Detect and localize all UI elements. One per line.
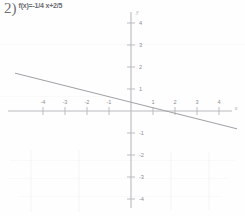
x-tick-label-4: 4 bbox=[217, 99, 220, 105]
x-tick-label-3: 3 bbox=[195, 99, 198, 105]
x-tick-label--1: -1 bbox=[107, 99, 112, 105]
x-tick-label--2: -2 bbox=[85, 99, 90, 105]
x-tick-label-2: 2 bbox=[173, 99, 176, 105]
y-tick-label-1: 1 bbox=[139, 86, 142, 92]
x-tick-label-1: 1 bbox=[151, 99, 154, 105]
x-tick-label--3: -3 bbox=[63, 99, 68, 105]
y-tick-label-3: 3 bbox=[139, 42, 142, 48]
x-tick-label--4: -4 bbox=[41, 99, 46, 105]
x-axis-label: x bbox=[234, 105, 238, 111]
y-tick-label-2: 2 bbox=[139, 64, 142, 70]
y-tick-label--4: -4 bbox=[139, 196, 144, 202]
y-tick-label-4: 4 bbox=[139, 20, 142, 26]
worksheet-page: 2) f(x)=-1/4 x+2/5 bbox=[0, 0, 245, 216]
coordinate-plane: -4 -3 -2 -1 1 2 3 4 4 3 2 1 -1 -2 -3 -4 … bbox=[0, 0, 245, 216]
y-axis-label: y bbox=[135, 9, 139, 15]
function-line-plot bbox=[15, 73, 237, 129]
y-tick-label--2: -2 bbox=[139, 152, 144, 158]
y-tick-label--3: -3 bbox=[139, 174, 144, 180]
y-tick-label--1: -1 bbox=[139, 130, 144, 136]
